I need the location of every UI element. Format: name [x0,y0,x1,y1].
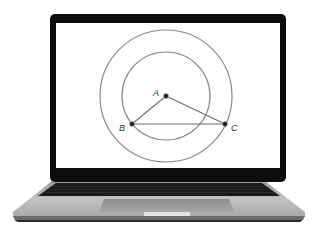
point-a [163,93,169,99]
label-a: A [153,89,159,98]
laptop-scene [0,0,317,231]
point-b [129,121,135,127]
laptop-base [13,181,305,222]
label-c: C [231,124,238,133]
point-c [222,121,228,127]
trackpad [99,199,234,212]
label-b: B [119,124,125,133]
front-notch [144,212,190,216]
